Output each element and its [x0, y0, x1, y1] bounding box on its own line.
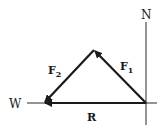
f1-label: F1 [120, 60, 133, 75]
f2-label: F2 [48, 64, 61, 79]
resultant-label: R [87, 111, 97, 124]
f1-label-sub: 1 [128, 65, 134, 75]
f2-label-main: F [48, 64, 56, 77]
west-label: W [9, 97, 22, 111]
north-label: N [141, 8, 152, 22]
f1-label-main: F [120, 60, 128, 73]
vector-f1 [95, 51, 146, 103]
f2-label-sub: 2 [56, 69, 62, 79]
vector-diagram: N W F1 F2 R [0, 0, 160, 125]
